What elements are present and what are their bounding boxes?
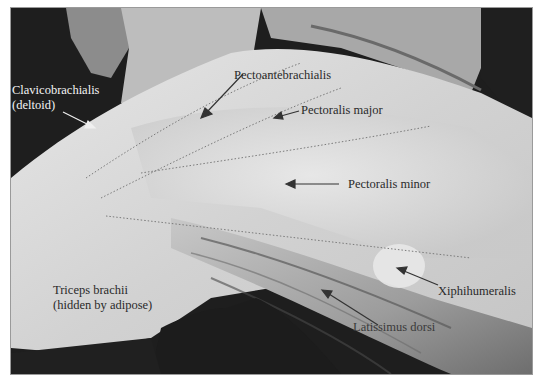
dissection-photo [11,8,532,374]
label-pectoralis-minor: Pectoralis minor [348,177,430,191]
caption-strip [0,375,541,382]
label-xiphihumeralis: Xiphihumeralis [438,284,516,298]
figure-frame: Clavicobrachialis (deltoid) Pectoantebra… [10,7,533,375]
label-triceps-sub: (hidden by adipose) [53,298,152,312]
label-triceps-brachii: Triceps brachii [53,283,128,297]
label-clavicobrachialis-sub: (deltoid) [12,98,55,112]
label-clavicobrachialis: Clavicobrachialis [12,83,99,97]
label-pectoantebrachialis: Pectoantebrachialis [234,68,331,82]
label-pectoralis-major: Pectoralis major [301,103,383,117]
label-latissimus-dorsi: Latissimus dorsi [353,320,435,334]
